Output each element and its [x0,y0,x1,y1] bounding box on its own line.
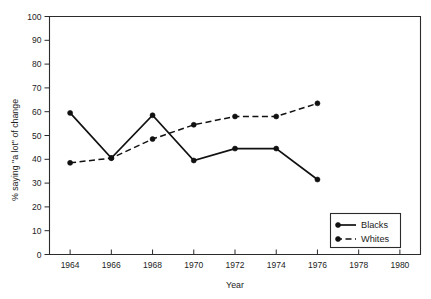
y-tick-label: 90 [32,35,42,45]
y-tick-label: 20 [32,202,42,212]
y-axis: 0102030405060708090100 [27,12,49,260]
data-point-blacks [150,113,155,118]
x-tick-label: 1974 [267,260,286,270]
x-axis: 196419661968197019721974197619781980 [61,250,410,270]
x-tick-label: 1970 [184,260,203,270]
x-tick-label: 1966 [102,260,121,270]
legend-label-blacks: Blacks [361,220,388,230]
y-tick-label: 100 [27,12,41,22]
legend-marker-blacks [336,223,341,228]
x-tick-label: 1968 [143,260,162,270]
chart-container: 0102030405060708090100 19641966196819701… [0,0,431,299]
chart-legend: BlacksWhites [331,214,401,248]
y-tick-label: 70 [32,83,42,93]
data-point-blacks [68,110,73,115]
data-point-blacks [315,177,320,182]
data-point-blacks [274,146,279,151]
data-point-blacks [191,158,196,163]
x-axis-title: Year [226,280,244,290]
x-tick-label: 1964 [61,260,80,270]
x-tick-label: 1972 [226,260,245,270]
x-tick-label: 1978 [349,260,368,270]
line-chart: 0102030405060708090100 19641966196819701… [0,0,431,299]
data-point-blacks [233,146,238,151]
legend-label-whites: Whites [361,234,389,244]
x-tick-label: 1976 [308,260,327,270]
data-point-whites [274,114,279,119]
y-tick-label: 60 [32,107,42,117]
y-tick-label: 0 [37,250,42,260]
data-point-whites [315,101,320,106]
y-tick-label: 10 [32,226,42,236]
y-tick-label: 50 [32,131,42,141]
y-tick-label: 80 [32,59,42,69]
data-point-whites [191,122,196,127]
data-point-whites [150,137,155,142]
data-point-whites [109,156,114,161]
data-point-whites [68,160,73,165]
series-layer [68,101,320,182]
y-tick-label: 30 [32,178,42,188]
data-point-whites [233,114,238,119]
y-axis-title: % saying "a lot" of change [10,99,20,201]
x-tick-label: 1980 [390,260,409,270]
legend-marker-whites [336,237,341,242]
y-tick-label: 40 [32,154,42,164]
